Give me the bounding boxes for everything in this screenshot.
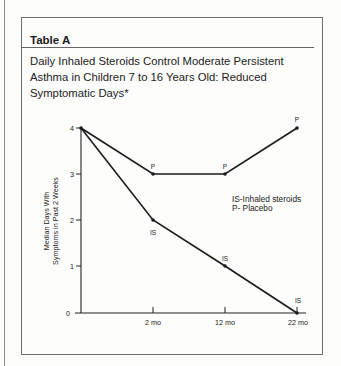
legend-entry: P- Placebo [232, 203, 273, 213]
series-placebo-line [81, 128, 297, 174]
y-tick-label: 0 [66, 309, 70, 318]
y-ticks: 4 3 2 1 0 [66, 124, 81, 318]
line-chart: 4 3 2 1 0 2 mo 12 mo 22 mo Median Days W… [0, 0, 341, 366]
point-label: P [295, 116, 299, 123]
y-tick-label: 1 [70, 262, 74, 271]
x-ticks: 2 mo 12 mo 22 mo [145, 307, 308, 327]
x-tick-label: 12 mo [215, 318, 235, 327]
legend: IS-Inhaled steroids P- Placebo [232, 194, 301, 213]
point-label: IS [295, 297, 302, 304]
x-tick-label: 22 mo [288, 318, 308, 327]
svg-text:Symptoms in Past 2 Weeks: Symptoms in Past 2 Weeks [51, 177, 60, 265]
point-label: P [151, 163, 155, 170]
y-axis-title: Median Days With Symptoms in Past 2 Week… [42, 177, 60, 265]
point-label: IS [222, 255, 229, 262]
x-tick-label: 2 mo [145, 318, 161, 327]
y-tick-label: 2 [70, 216, 74, 225]
series-inhaled-steroids-line [81, 128, 297, 313]
y-tick-label: 3 [70, 170, 74, 179]
y-tick-label: 4 [70, 124, 74, 133]
point-label: IS [150, 229, 157, 236]
point-label: P [223, 163, 227, 170]
